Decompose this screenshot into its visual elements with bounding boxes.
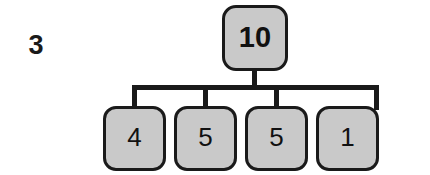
child-node-2: 5 xyxy=(174,106,237,171)
edge-horizontal-bus xyxy=(132,85,379,90)
root-node-value: 10 xyxy=(239,21,271,54)
tree-diagram: 3 10 4 5 5 1 xyxy=(0,0,430,175)
edge-drop-child-4 xyxy=(374,85,379,110)
child-node-3-value: 5 xyxy=(269,122,283,153)
child-node-3: 5 xyxy=(245,106,308,171)
child-node-1-value: 4 xyxy=(127,122,141,153)
child-node-4: 1 xyxy=(316,106,379,171)
step-number-label: 3 xyxy=(18,25,54,65)
child-node-1: 4 xyxy=(103,106,166,171)
child-node-2-value: 5 xyxy=(198,122,212,153)
root-node: 10 xyxy=(222,5,288,71)
child-node-4-value: 1 xyxy=(340,122,354,153)
